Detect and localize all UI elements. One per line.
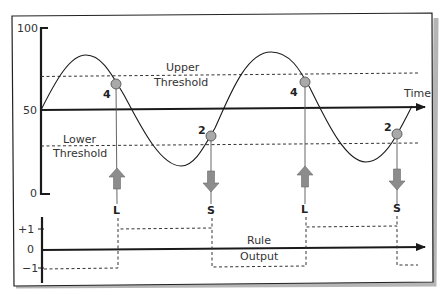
signal-label-short: S	[393, 202, 401, 215]
crossing-label-1: 4	[103, 88, 111, 101]
y-tick-100: 100	[17, 22, 38, 35]
lower-threshold-label-line2: Threshold	[52, 147, 107, 160]
output-tick-minus1: −1	[22, 262, 38, 275]
output-tick-0: 0	[27, 243, 34, 256]
y-tick-0: 0	[30, 187, 37, 200]
signal-label-long: L	[301, 203, 308, 216]
signal-label-long: L	[113, 204, 120, 217]
rule-output-label-line1: Rule	[247, 234, 271, 247]
crossing-label-3: 4	[290, 86, 298, 99]
crossing-marker-1	[111, 79, 121, 89]
crossing-label-2: 2	[198, 124, 206, 137]
output-tick-plus1: +1	[18, 223, 34, 236]
crossing-marker-3	[300, 77, 310, 87]
upper-threshold-label-line1: Upper	[166, 61, 200, 74]
signal-label-short: S	[207, 204, 215, 217]
lower-threshold-label-line1: Lower	[63, 133, 96, 146]
crossing-marker-4	[392, 129, 402, 139]
y-tick-50: 50	[23, 104, 37, 117]
upper-threshold-label-line2: Threshold	[153, 76, 208, 89]
time-axis-label: Time	[403, 87, 431, 100]
crossing-label-4: 2	[384, 121, 392, 134]
rule-output-label-line2: Output	[240, 250, 279, 263]
diagram-canvas: 100 50 0 Time Upper Threshold Lower Thre…	[0, 0, 445, 297]
crossing-marker-2	[206, 131, 216, 141]
